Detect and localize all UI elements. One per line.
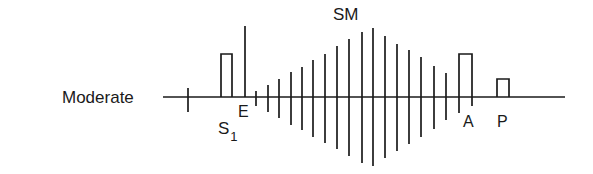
label-s1: S1 (218, 120, 237, 137)
row-label-moderate: Moderate (62, 89, 134, 106)
label-e: E (238, 104, 249, 120)
s1-pulse (221, 54, 232, 97)
phonocardiogram-diagram (0, 0, 593, 174)
label-sm: SM (333, 6, 359, 23)
a-pulse (459, 54, 472, 113)
p-pulse (497, 79, 509, 97)
label-s1-main: S (218, 119, 229, 138)
label-a: A (463, 114, 474, 130)
label-p: P (497, 114, 508, 130)
label-s1-subscript: 1 (230, 129, 237, 144)
